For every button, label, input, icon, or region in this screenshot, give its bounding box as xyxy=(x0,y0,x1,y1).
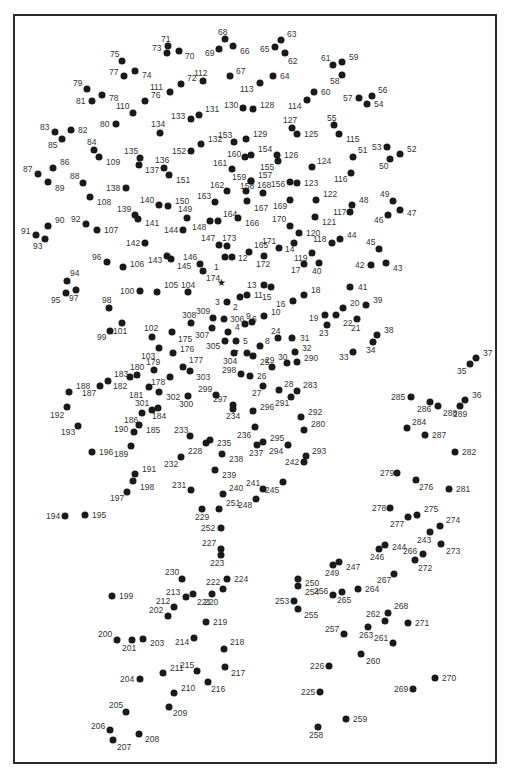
dot-label: 108 xyxy=(97,198,111,207)
dot-295 xyxy=(260,439,267,446)
dot-39 xyxy=(363,302,370,309)
dot-label: 256 xyxy=(314,587,328,596)
dot-203 xyxy=(140,636,147,643)
dot-label: 122 xyxy=(323,190,337,199)
dot-150 xyxy=(165,203,172,210)
dot-label: 226 xyxy=(310,662,324,671)
dot-240 xyxy=(220,491,227,498)
dot-106 xyxy=(120,264,127,271)
dot-204 xyxy=(137,676,144,683)
dot-label: 281 xyxy=(456,485,470,494)
dot-52 xyxy=(397,151,404,158)
dot-287 xyxy=(422,432,429,439)
dot-138 xyxy=(123,185,130,192)
dot-281 xyxy=(446,486,453,493)
dot-label: 60 xyxy=(321,88,330,97)
dot-label: 219 xyxy=(213,618,227,627)
dot-label: 247 xyxy=(346,563,360,572)
dot-label: 56 xyxy=(378,86,387,95)
dot-label: 159 xyxy=(232,173,246,182)
dot-31 xyxy=(289,335,296,342)
dot-label: 184 xyxy=(152,412,166,421)
dot-label: 299 xyxy=(198,385,212,394)
dot-1 xyxy=(222,254,229,261)
dot-215 xyxy=(194,668,201,675)
dot-label: 62 xyxy=(288,57,297,66)
dot-202 xyxy=(165,613,172,620)
dot-118 xyxy=(329,240,336,247)
dot-label: 120 xyxy=(306,229,320,238)
dot-label: 300 xyxy=(179,400,193,409)
dot-35 xyxy=(467,361,474,368)
dot-label: 252 xyxy=(201,524,215,533)
dot-label: 275 xyxy=(424,505,438,514)
dot-label: 115 xyxy=(346,135,360,144)
dot-279 xyxy=(394,470,401,477)
dot-170 xyxy=(287,223,294,230)
dot-label: 97 xyxy=(69,294,78,303)
dot-194 xyxy=(62,513,69,520)
dot-label: 263 xyxy=(359,631,373,640)
dot-84 xyxy=(91,147,98,154)
dot-209 xyxy=(166,704,173,711)
dot-51 xyxy=(350,154,357,161)
dot-33 xyxy=(350,349,357,356)
dot-36 xyxy=(462,397,469,404)
dot-196 xyxy=(89,449,96,456)
dot-label: 83 xyxy=(40,123,49,132)
dot-199 xyxy=(109,593,116,600)
dot-61 xyxy=(330,62,337,69)
dot-label: 80 xyxy=(100,120,109,129)
dot-76 xyxy=(142,98,149,105)
dot-60 xyxy=(311,89,318,96)
dot-label: 85 xyxy=(48,141,57,150)
dot-label: 216 xyxy=(211,685,225,694)
dot-164 xyxy=(215,218,222,225)
dot-label: 293 xyxy=(312,447,326,456)
dot-197 xyxy=(124,489,131,496)
dot-label: 75 xyxy=(110,50,119,59)
dot-123 xyxy=(294,180,301,187)
dot-label: 167 xyxy=(254,204,268,213)
dot-label: 92 xyxy=(71,215,80,224)
dot-label: 124 xyxy=(317,157,331,166)
dot-label: 90 xyxy=(55,216,64,225)
dot-48 xyxy=(349,202,356,209)
dot-301 xyxy=(149,407,156,414)
dot-label: 259 xyxy=(353,715,367,724)
dot-label: 64 xyxy=(280,72,289,81)
dot-102 xyxy=(149,334,156,341)
dot-188 xyxy=(66,389,73,396)
dot-219 xyxy=(203,619,210,626)
dot-161 xyxy=(229,166,236,173)
dot-label: 172 xyxy=(256,260,270,269)
dot-224 xyxy=(224,576,231,583)
dot-label: 225 xyxy=(301,688,315,697)
dot-198 xyxy=(130,478,137,485)
dot-137 xyxy=(136,162,143,169)
dot-213 xyxy=(183,594,190,601)
dot-label: 189 xyxy=(114,450,128,459)
dot-93 xyxy=(42,236,49,243)
dot-206 xyxy=(107,727,114,734)
dot-label: 2 xyxy=(233,303,238,312)
dot-42 xyxy=(368,262,375,269)
dot-302 xyxy=(156,389,163,396)
dot-186 xyxy=(139,410,146,417)
dot-26 xyxy=(247,373,254,380)
dot-127 xyxy=(289,125,296,132)
dot-label: 251 xyxy=(226,499,240,508)
dot-193 xyxy=(75,423,82,430)
dot-label: 58 xyxy=(330,77,339,86)
dot-110 xyxy=(130,110,137,117)
dot-label: 101 xyxy=(113,327,127,336)
dot-label: 177 xyxy=(189,356,203,365)
dot-160 xyxy=(242,154,249,161)
dot-label: 267 xyxy=(377,576,391,585)
dot-label: 79 xyxy=(73,79,82,88)
dot-label: 30 xyxy=(278,353,287,362)
dot-label: 68 xyxy=(218,28,227,37)
dot-label: 121 xyxy=(322,218,336,227)
dot-214 xyxy=(191,635,198,642)
dot-label: 84 xyxy=(87,138,96,147)
